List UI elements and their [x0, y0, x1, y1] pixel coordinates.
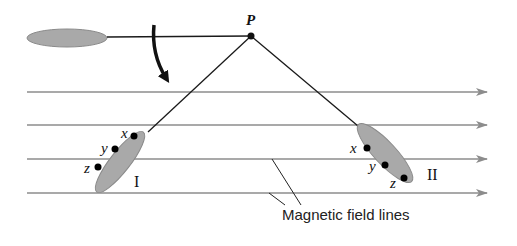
- coil-I-disk: [89, 126, 152, 198]
- coil-I-label: I: [134, 173, 139, 190]
- initial-coil-position: [27, 29, 251, 47]
- coil-I-point-z: [95, 164, 102, 171]
- coil-II-disk: [350, 117, 419, 189]
- coil-I-label-x: x: [120, 125, 128, 141]
- coil-I-label-y: y: [99, 140, 108, 156]
- string-horizontal: [107, 36, 251, 37]
- field-lines: [27, 92, 487, 193]
- field-lines-label: Magnetic field lines: [282, 206, 410, 223]
- coil-II-point-z: [401, 175, 408, 182]
- coil-horizontal: [27, 29, 107, 47]
- coil-II-label-x: x: [349, 140, 357, 156]
- coil-I-point-x: [131, 133, 138, 140]
- pivot-label: P: [246, 12, 256, 28]
- coil-II-label-y: y: [367, 158, 376, 174]
- coil-II: [350, 117, 419, 189]
- coil-II-label: II: [427, 166, 438, 183]
- coil-II-point-x: [364, 145, 371, 152]
- coil-II-label-z: z: [389, 175, 396, 191]
- coil-I-label-z: z: [83, 160, 90, 176]
- coil-II-point-y: [382, 162, 389, 169]
- pivot-point: [248, 33, 255, 40]
- string-to-coil-II: [251, 36, 358, 126]
- swing-arrow-icon: [154, 25, 167, 78]
- coil-I: [89, 126, 152, 198]
- coil-I-point-y: [112, 146, 119, 153]
- label-leader-lines: [269, 159, 301, 205]
- pendulum-coil-diagram: P x y z I x y z II Magnetic field lines: [0, 0, 517, 246]
- string-to-coil-I: [148, 36, 251, 132]
